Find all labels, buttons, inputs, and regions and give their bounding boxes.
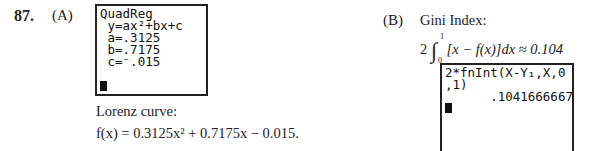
calculator-screen-quadreg: QuadReg y=ax²+bx+c a=.3125 b=.7175 c=⁻.0… xyxy=(95,4,208,96)
calculator-screen-fnint: 2*fnInt(X-Y₁,X,0 ,1) .1041666667 xyxy=(440,63,574,151)
gini-title: Gini Index: xyxy=(420,12,486,29)
screen-line: c=⁻.015 xyxy=(100,56,203,68)
gini-integrand: [x − f(x)]dx ≈ 0.104 xyxy=(447,41,563,57)
cursor-icon xyxy=(100,81,107,91)
upper-limit: 1 xyxy=(440,32,444,41)
gini-formula: 2 ∫ 1 0 [x − f(x)]dx ≈ 0.104 xyxy=(420,34,563,60)
part-b-label: (B) xyxy=(383,12,403,29)
integral-icon: ∫ xyxy=(431,38,437,63)
screen-line: .1041666667 xyxy=(445,91,569,103)
lorenz-equation: f(x) = 0.3125x² + 0.7175x − 0.015. xyxy=(96,125,299,142)
problem-number: 87. xyxy=(14,7,34,25)
lorenz-caption: Lorenz curve: xyxy=(96,103,177,120)
gini-coef: 2 xyxy=(420,41,427,57)
part-a-label: (A) xyxy=(52,7,73,24)
cursor-icon xyxy=(445,103,452,113)
